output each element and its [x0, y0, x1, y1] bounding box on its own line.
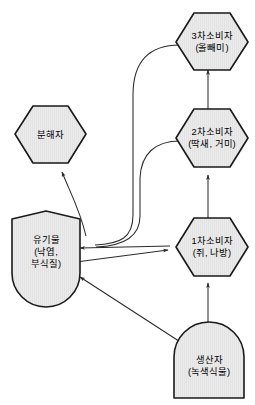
organic-matter-label-line3: 부식질): [31, 258, 61, 269]
primary-consumer-label-line2: (쥐, 나방): [193, 248, 231, 258]
node-primary-consumer: 1차소비자 (쥐, 나방): [176, 218, 248, 276]
node-organic-matter: 유기물 (낙엽, 부식질): [12, 211, 80, 307]
ecosystem-diagram: 3차소비자 (올빼미) 2차소비자 (딱새, 거미) 1차소비자 (쥐, 나방)…: [0, 0, 255, 405]
secondary-consumer-hexagon: [176, 109, 248, 167]
tertiary-consumer-label-line1: 3차소비자: [191, 30, 232, 41]
edge-secondary-to-organic: [96, 141, 180, 247]
node-producer: 생산자 (녹색식물): [174, 322, 244, 398]
secondary-consumer-label-line2: (딱새, 거미): [188, 139, 235, 149]
producer-label-line1: 생산자: [196, 355, 223, 365]
edge-organic-to-primary: [76, 250, 168, 262]
node-tertiary-consumer: 3차소비자 (올빼미): [176, 13, 248, 70]
tertiary-consumer-label-line2: (올빼미): [195, 43, 228, 53]
producer-label-line2: (녹색식물): [188, 367, 230, 377]
primary-consumer-label-line1: 1차소비자: [191, 235, 232, 246]
edge-tertiary-to-organic: [95, 45, 180, 245]
decomposer-label: 분해자: [37, 129, 64, 140]
primary-consumer-hexagon: [176, 218, 248, 276]
diagram-canvas: 3차소비자 (올빼미) 2차소비자 (딱새, 거미) 1차소비자 (쥐, 나방)…: [0, 0, 255, 405]
node-decomposer: 분해자: [15, 106, 86, 163]
node-secondary-consumer: 2차소비자 (딱새, 거미): [176, 109, 248, 167]
organic-matter-label-line1: 유기물: [33, 235, 60, 245]
edge-primary-to-organic: [80, 246, 170, 248]
secondary-consumer-label-line1: 2차소비자: [191, 126, 232, 137]
tertiary-consumer-hexagon: [176, 13, 248, 70]
organic-matter-label-line2: (낙엽,: [34, 247, 58, 257]
edge-producer-to-organic: [80, 277, 185, 345]
